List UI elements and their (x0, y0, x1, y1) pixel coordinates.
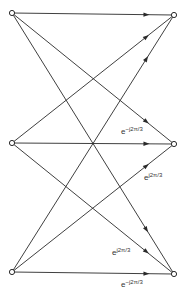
arrowhead-icon (143, 12, 149, 16)
node-in0 (9, 10, 14, 15)
edges-group (12, 13, 174, 274)
twiddle-label: e−j2π/3 (121, 126, 143, 136)
twiddle-label: e−j2π/3 (121, 279, 143, 289)
arrowhead-icon (143, 142, 149, 146)
arrowhead-icon (143, 226, 150, 233)
node-out0 (171, 12, 176, 17)
edge-in0-out0 (12, 13, 174, 15)
node-in1 (9, 140, 14, 145)
node-out1 (171, 141, 176, 146)
edge-in2-out2 (12, 272, 174, 274)
twiddle-label: ej2π/3 (144, 172, 162, 182)
flow-graph (0, 0, 184, 296)
arrowhead-icon (143, 55, 150, 62)
node-in2 (9, 269, 14, 274)
arrowhead-icon (143, 271, 149, 275)
node-out2 (171, 271, 176, 276)
twiddle-label: ej2π/3 (112, 247, 130, 257)
